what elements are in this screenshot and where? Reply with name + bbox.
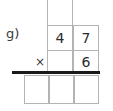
answer-rule-divider	[12, 71, 100, 74]
answer-cell-ones[interactable]	[74, 75, 99, 104]
problem-label: g)	[6, 27, 19, 41]
multiplier-cell-ones-value: 6	[74, 54, 98, 69]
multiplicand-cell-tens-value: 4	[48, 31, 72, 46]
multiplier-cell-ones[interactable]: 6	[73, 50, 99, 73]
answer-cell-hundreds[interactable]	[24, 75, 49, 104]
multiplicand-cell-ones-value: 7	[74, 31, 98, 46]
carry-cell-tens[interactable]	[47, 0, 73, 26]
answer-cell-tens[interactable]	[49, 75, 74, 104]
multiplicand-cell-ones[interactable]: 7	[73, 25, 99, 51]
multiplication-problem: g) 4 7 × 6	[0, 0, 113, 111]
multiplier-cell-tens[interactable]	[47, 50, 73, 73]
multiplicand-cell-tens[interactable]: 4	[47, 25, 73, 51]
multiplication-operator-icon: ×	[33, 52, 47, 72]
